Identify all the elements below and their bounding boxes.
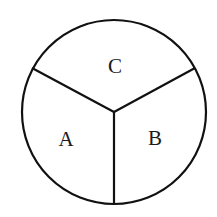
divider-right	[114, 68, 195, 112]
sector-label-a: A	[58, 127, 74, 151]
divider-left	[32, 68, 114, 112]
sector-label-b: B	[148, 126, 162, 150]
sector-label-c: C	[108, 54, 122, 78]
spinner-diagram: C A B	[0, 0, 217, 217]
